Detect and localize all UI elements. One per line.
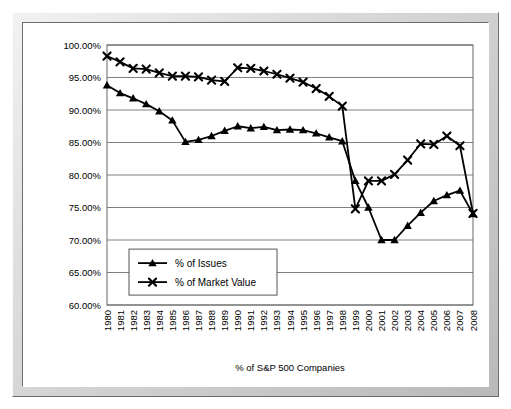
x-axis-tick-label: 1992 [258, 310, 269, 331]
y-axis-tick-label: 60.00% [69, 300, 102, 311]
x-axis-tick-label: 1996 [311, 310, 322, 331]
x-axis-tick-label: 1999 [350, 310, 361, 331]
x-axis-tick-label: 1998 [337, 310, 348, 331]
x-axis-tick-label: 1987 [193, 310, 204, 331]
chart-canvas: 100.00%95.00%90.00%85.00%80.00%75.00%70.… [45, 33, 478, 378]
x-axis-tick-label: 2008 [468, 310, 479, 331]
legend-item-label: % of Market Value [175, 277, 256, 288]
legend-box [129, 249, 277, 295]
x-axis-tick-label: 1993 [271, 310, 282, 331]
x-axis-tick-label: 1991 [245, 310, 256, 331]
chart-plate: 100.00%95.00%90.00%85.00%80.00%75.00%70.… [0, 0, 511, 409]
x-axis-tick-label: 1981 [115, 310, 126, 331]
x-axis-tick-label: 2004 [415, 310, 426, 331]
x-axis-title: % of S&P 500 Companies [235, 362, 345, 373]
x-axis-tick-label: 2001 [376, 310, 387, 331]
picture-frame: 100.00%95.00%90.00%85.00%80.00%75.00%70.… [12, 12, 499, 397]
x-axis-tick-label: 1986 [180, 310, 191, 331]
x-axis-tick-label: 1980 [102, 310, 113, 331]
x-axis-tick-label: 1994 [285, 310, 296, 331]
y-axis-tick-label: 90.00% [69, 105, 102, 116]
x-axis-tick-label: 1985 [167, 310, 178, 331]
x-axis-tick-label: 2000 [363, 310, 374, 331]
frame-inner-bevel: 100.00%95.00%90.00%85.00%80.00%75.00%70.… [22, 22, 489, 387]
x-axis-tick-label: 1988 [206, 310, 217, 331]
x-axis-tick-label: 1989 [219, 310, 230, 331]
y-axis-tick-label: 85.00% [69, 137, 102, 148]
x-axis-tick-label: 1990 [232, 310, 243, 331]
x-axis-tick-label: 2005 [428, 310, 439, 331]
y-axis-tick-label: 65.00% [69, 267, 102, 278]
y-axis-tick-label: 100.00% [63, 40, 101, 51]
y-axis-tick-label: 75.00% [69, 202, 102, 213]
y-axis-tick-label: 95.00% [69, 72, 102, 83]
x-axis-tick-label: 1983 [141, 310, 152, 331]
x-axis-tick-label: 1982 [128, 310, 139, 331]
y-axis-tick-label: 80.00% [69, 170, 102, 181]
legend-item-label: % of Issues [175, 258, 227, 269]
x-axis-tick-label: 1997 [324, 310, 335, 331]
x-axis-tick-label: 2003 [402, 310, 413, 331]
x-axis-tick-label: 2002 [389, 310, 400, 331]
x-axis-tick-label: 2007 [454, 310, 465, 331]
x-axis-tick-label: 1984 [154, 310, 165, 331]
x-axis-tick-label: 1995 [298, 310, 309, 331]
y-axis-tick-label: 70.00% [69, 235, 102, 246]
x-axis-tick-label: 2006 [441, 310, 452, 331]
line-chart: 100.00%95.00%90.00%85.00%80.00%75.00%70.… [45, 33, 485, 383]
